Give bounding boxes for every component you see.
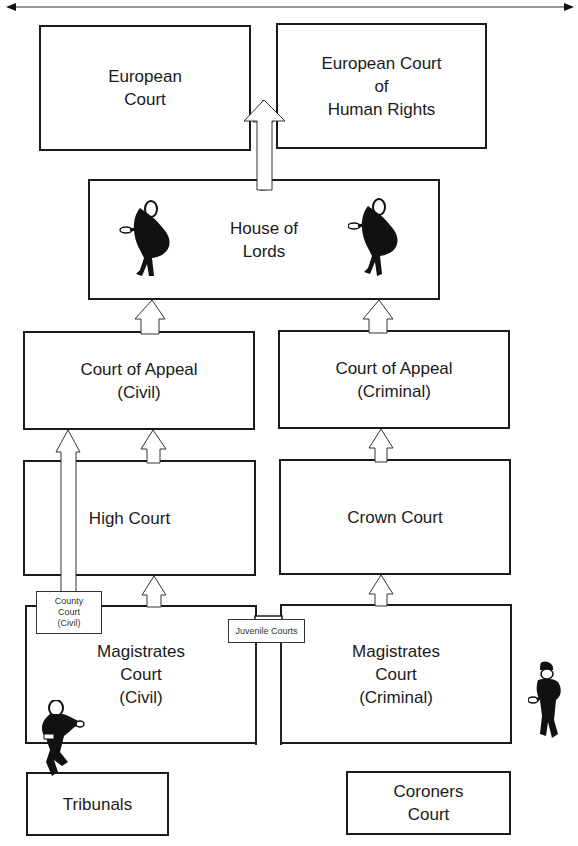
arrow-up-icon xyxy=(244,100,285,190)
judge-figure-left xyxy=(118,200,178,280)
arrow-up-icon xyxy=(56,430,80,592)
barrister-figure xyxy=(38,700,88,780)
arrow-up-icon xyxy=(135,300,165,334)
arrow-up-icon xyxy=(141,430,166,463)
arrow-up-icon xyxy=(363,300,393,333)
juvenile-courts-box: Juvenile Courts xyxy=(228,619,305,643)
county-court-box: County Court (Civil) xyxy=(36,591,102,634)
county-court-label: County Court (Civil) xyxy=(55,596,84,629)
arrow-up-icon xyxy=(369,575,393,606)
judge-figure-right xyxy=(348,198,408,278)
arrow-up-icon xyxy=(369,429,393,462)
arrow-up-icon xyxy=(142,576,166,607)
police-officer-figure xyxy=(528,660,568,742)
juvenile-courts-label: Juvenile Courts xyxy=(235,626,297,637)
